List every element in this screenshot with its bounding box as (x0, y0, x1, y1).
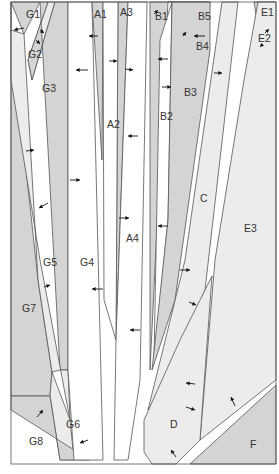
region-label-a2: A2 (107, 118, 120, 130)
region-label-g5: G5 (43, 256, 57, 268)
region-label-g1: G1 (26, 8, 40, 20)
region-label-g2: G2 (28, 48, 42, 60)
region-label-e3: E3 (244, 222, 257, 234)
region-label-b5: B5 (198, 10, 211, 22)
region-label-g7: G7 (22, 302, 36, 314)
region-label-b4: B4 (196, 40, 209, 52)
region-label-a1: A1 (94, 8, 107, 20)
region-label-b2: B2 (160, 110, 173, 122)
region-label-a3: A3 (120, 6, 133, 18)
region-label-c: C (200, 192, 208, 204)
region-diagram: G1G2G3G4G5G6G7G8A1A2A3A4B1B2B3B4B5CDE1E2… (0, 0, 279, 474)
region-label-g3: G3 (42, 82, 56, 94)
region-label-e1: E1 (261, 6, 274, 18)
region-label-g6: G6 (66, 418, 80, 430)
region-label-f: F (250, 438, 256, 450)
region-label-a4: A4 (126, 232, 139, 244)
region-label-d: D (170, 418, 178, 430)
region-label-e2: E2 (258, 32, 271, 44)
region-label-g8: G8 (29, 435, 43, 447)
region-label-b1: B1 (155, 10, 168, 22)
region-label-g4: G4 (80, 256, 94, 268)
diagram-canvas: G1G2G3G4G5G6G7G8A1A2A3A4B1B2B3B4B5CDE1E2… (0, 0, 279, 474)
regions-layer (11, 2, 276, 464)
region-a2 (103, 2, 118, 340)
region-label-b3: B3 (184, 86, 197, 98)
